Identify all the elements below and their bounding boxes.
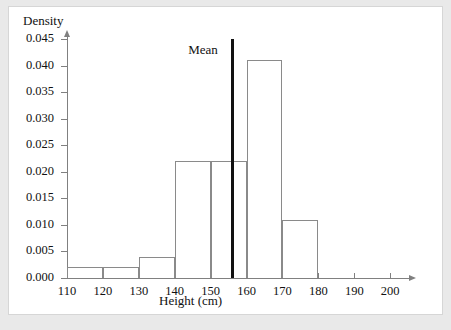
x-tick-label: 160 xyxy=(227,284,267,299)
y-axis-title: Density xyxy=(23,13,63,29)
x-tick-label: 170 xyxy=(262,284,302,299)
x-tick-mark xyxy=(390,273,391,279)
y-tick-label: 0.020 xyxy=(8,164,54,179)
histogram-bar xyxy=(211,161,247,278)
y-tick-mark xyxy=(61,66,67,67)
y-tick-label: 0.005 xyxy=(8,243,54,258)
y-axis-arrow-icon xyxy=(64,30,70,37)
y-tick-label: 0.030 xyxy=(8,111,54,126)
histogram-bar xyxy=(175,161,211,278)
x-axis-line xyxy=(67,278,409,279)
x-tick-label: 110 xyxy=(47,284,87,299)
y-tick-mark xyxy=(61,198,67,199)
histogram-chart: Density Height (cm) 0.0000.0050.0100.015… xyxy=(9,7,444,316)
x-tick-label: 150 xyxy=(191,284,231,299)
page-background: Density Height (cm) 0.0000.0050.0100.015… xyxy=(0,0,451,330)
histogram-bar xyxy=(247,60,283,278)
y-tick-label: 0.035 xyxy=(8,84,54,99)
y-tick-mark xyxy=(61,145,67,146)
histogram-bar xyxy=(67,267,103,278)
x-tick-label: 140 xyxy=(155,284,195,299)
histogram-bar xyxy=(282,220,318,278)
y-tick-mark xyxy=(61,172,67,173)
y-tick-label: 0.000 xyxy=(8,270,54,285)
y-tick-label: 0.010 xyxy=(8,217,54,232)
histogram-bar xyxy=(103,267,139,278)
y-tick-mark xyxy=(61,119,67,120)
x-tick-label: 180 xyxy=(298,284,338,299)
chart-card: Density Height (cm) 0.0000.0050.0100.015… xyxy=(8,6,443,315)
y-tick-label: 0.040 xyxy=(8,58,54,73)
x-axis-arrow-icon xyxy=(409,275,416,281)
x-tick-label: 120 xyxy=(83,284,123,299)
mean-label: Mean xyxy=(188,42,218,58)
y-tick-label: 0.025 xyxy=(8,137,54,152)
y-tick-label: 0.015 xyxy=(8,190,54,205)
x-tick-mark xyxy=(354,273,355,279)
y-axis-line xyxy=(67,37,68,278)
y-tick-mark xyxy=(61,225,67,226)
x-tick-label: 190 xyxy=(334,284,374,299)
y-tick-mark xyxy=(61,92,67,93)
y-tick-label: 0.045 xyxy=(8,31,54,46)
y-tick-mark xyxy=(61,39,67,40)
mean-line xyxy=(231,39,234,278)
histogram-bar xyxy=(139,257,175,278)
y-tick-mark xyxy=(61,251,67,252)
x-tick-label: 200 xyxy=(370,284,410,299)
x-tick-label: 130 xyxy=(119,284,159,299)
